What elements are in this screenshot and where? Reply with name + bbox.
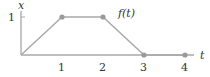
point-t3: [141, 52, 146, 57]
y-axis-label: x: [18, 0, 25, 12]
x-tick-label-1: 1: [58, 61, 65, 74]
y-tick-label: 1: [8, 11, 15, 24]
piecewise-function-diagram: x 1 f(t) t 1 2 3 4: [0, 0, 210, 77]
x-tick-label-3: 3: [140, 61, 147, 74]
x-tick-label-2: 2: [99, 61, 106, 74]
point-t1: [59, 14, 64, 19]
function-graph: [21, 17, 185, 55]
x-tick-label-4: 4: [181, 61, 188, 74]
function-label: f(t): [117, 7, 135, 20]
point-t2: [100, 14, 105, 19]
x-axis-label: t: [200, 49, 205, 62]
point-t4: [182, 52, 187, 57]
